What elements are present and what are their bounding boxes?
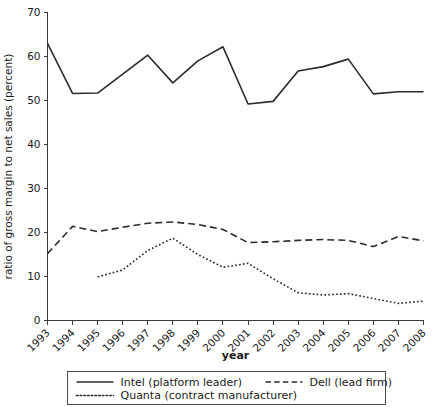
series-group: [48, 43, 424, 303]
line-chart-svg: 010203040506070 199319941995199619971998…: [0, 0, 433, 407]
x-tick-label: 1996: [100, 326, 128, 354]
chart-legend: Intel (platform leader)Dell (lead firm)Q…: [68, 372, 392, 405]
series-line-intel: [48, 43, 424, 104]
y-tick-label: 60: [27, 50, 40, 62]
y-tick-label: 30: [27, 182, 40, 194]
series-line-quanta: [98, 238, 424, 303]
y-tick-group: 010203040506070: [27, 6, 47, 326]
x-tick-label: 1995: [75, 326, 102, 353]
legend-label: Intel (platform leader): [121, 376, 243, 389]
y-tick-label: 50: [27, 94, 40, 106]
chart-figure: 010203040506070 199319941995199619971998…: [0, 0, 433, 407]
y-tick-label: 0: [34, 314, 41, 326]
y-tick-label: 70: [27, 6, 40, 18]
x-tick-label: 1993: [25, 326, 52, 353]
x-tick-label: 1998: [150, 326, 177, 353]
x-axis-title: year: [222, 349, 250, 362]
y-tick-label: 40: [27, 138, 40, 150]
legend-items: Intel (platform leader)Dell (lead firm)Q…: [77, 376, 392, 403]
legend-label: Dell (lead firm): [310, 376, 392, 389]
x-tick-label: 2007: [375, 326, 402, 353]
legend-label: Quanta (contract manufacturer): [121, 389, 298, 402]
x-tick-label: 1999: [175, 326, 202, 353]
x-tick-label: 2003: [275, 326, 302, 353]
x-tick-label: 1997: [125, 326, 152, 353]
x-tick-label: 2008: [401, 326, 428, 353]
x-tick-label: 2006: [350, 326, 378, 354]
x-tick-label: 2005: [325, 326, 352, 353]
series-line-dell: [48, 222, 424, 254]
x-tick-label: 1994: [50, 326, 78, 354]
y-axis-group: 010203040506070: [27, 6, 47, 326]
y-tick-label: 10: [27, 270, 40, 282]
y-axis-title: ratio of gross margin to net sales (perc…: [2, 54, 14, 280]
x-tick-label: 2002: [250, 326, 277, 353]
x-tick-label: 2004: [300, 326, 328, 354]
y-tick-label: 20: [27, 226, 40, 238]
